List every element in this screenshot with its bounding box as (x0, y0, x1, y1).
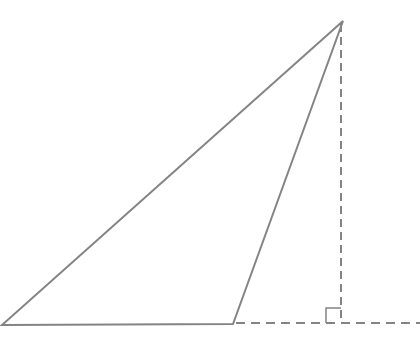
triangle-outline (2, 21, 343, 325)
diagram-canvas (0, 0, 420, 347)
triangle-altitude-diagram (0, 0, 420, 347)
right-angle-marker (326, 308, 341, 323)
